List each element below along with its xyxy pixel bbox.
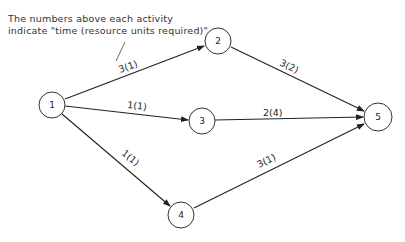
node-5-label: 5 — [375, 112, 381, 122]
edge-3-5: 2(4) — [215, 107, 363, 120]
note-leader-line — [116, 42, 125, 61]
node-5: 5 — [364, 103, 392, 131]
network-diagram: 3(1) 1(1) 1(1) 3(2) 2(4) 3(1) 1 2 3 4 5 — [0, 0, 405, 242]
edge-label-1-3: 1(1) — [127, 99, 148, 112]
node-2: 2 — [205, 28, 231, 54]
edge-label-4-5: 3(1) — [255, 151, 277, 169]
node-1: 1 — [39, 92, 65, 118]
node-3-label: 3 — [199, 116, 205, 126]
edge-1-2: 3(1) — [65, 46, 204, 99]
node-4-label: 4 — [178, 210, 184, 220]
node-3: 3 — [189, 108, 215, 134]
edge-1-3: 1(1) — [65, 99, 188, 120]
edge-2-5: 3(2) — [231, 47, 364, 111]
edge-label-3-5: 2(4) — [263, 107, 283, 118]
edge-label-2-5: 3(2) — [278, 57, 300, 75]
node-1-label: 1 — [49, 100, 55, 110]
edge-4-5: 3(1) — [194, 124, 364, 208]
edge-label-1-4: 1(1) — [120, 147, 142, 168]
edge-1-4: 1(1) — [62, 114, 170, 206]
node-4: 4 — [168, 202, 194, 228]
node-2-label: 2 — [215, 36, 221, 46]
